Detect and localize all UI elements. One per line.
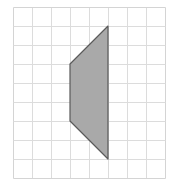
grid-diagram xyxy=(0,0,171,188)
